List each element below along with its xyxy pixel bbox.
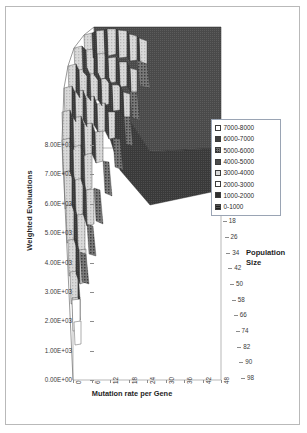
z-tick-label: 66 xyxy=(240,311,247,318)
legend-label: 3000-4000 xyxy=(224,169,255,176)
z-tick-label: 74 xyxy=(242,327,249,334)
legend-swatch-icon xyxy=(215,159,221,165)
z-tick-mark xyxy=(225,237,229,238)
legend-label: 6000-7000 xyxy=(224,135,255,142)
z-tick-mark xyxy=(241,378,245,379)
z-tick-mark xyxy=(232,300,236,301)
legend-swatch-icon xyxy=(215,192,221,198)
z-tick-mark xyxy=(226,253,230,254)
legend-swatch-icon xyxy=(215,147,221,153)
z-tick-label: 18 xyxy=(229,217,236,224)
legend-swatch-icon xyxy=(215,125,221,131)
legend-item[interactable]: 0-1000 xyxy=(215,201,278,212)
z-tick-mark xyxy=(237,347,241,348)
z-tick-label: 26 xyxy=(231,233,238,240)
z-tick-mark xyxy=(230,284,234,285)
z-tick-label: 50 xyxy=(236,280,243,287)
z-tick-mark xyxy=(223,221,227,222)
legend-swatch-icon xyxy=(215,136,221,142)
legend-label: 4000-5000 xyxy=(224,158,255,165)
legend-item[interactable]: 1000-2000 xyxy=(215,190,278,201)
legend-swatch-icon xyxy=(215,170,221,176)
legend-label: 5000-6000 xyxy=(224,147,255,154)
legend-label: 0-1000 xyxy=(224,203,244,210)
z-tick-label: 98 xyxy=(247,374,254,381)
z-tick-label: 90 xyxy=(245,358,252,365)
legend-swatch-icon xyxy=(215,204,221,210)
z-tick-label: 82 xyxy=(243,343,250,350)
legend-item[interactable]: 5000-6000 xyxy=(215,145,278,156)
z-tick-mark xyxy=(228,268,232,269)
legend-label: 7000-8000 xyxy=(224,124,255,131)
legend-item[interactable]: 3000-4000 xyxy=(215,167,278,178)
z-tick-label: 34 xyxy=(232,249,239,256)
legend-item[interactable]: 7000-8000 xyxy=(215,122,278,133)
z-tick-label: 58 xyxy=(238,296,245,303)
chart-figure: Weighted Evaluations 8.00E+037.00E+036.0… xyxy=(0,0,307,433)
z-tick-mark xyxy=(239,362,243,363)
legend-item[interactable]: 6000-7000 xyxy=(215,133,278,144)
legend-label: 1000-2000 xyxy=(224,192,255,199)
z-tick-label: 42 xyxy=(234,264,241,271)
legend-item[interactable]: 2000-3000 xyxy=(215,178,278,189)
z-axis-ticks: 2101826344250586674829098 xyxy=(0,0,307,433)
z-tick-mark xyxy=(236,331,240,332)
z-tick-mark xyxy=(234,315,238,316)
chart-legend: 7000-80006000-70005000-60004000-50003000… xyxy=(211,119,281,216)
legend-label: 2000-3000 xyxy=(224,181,255,188)
legend-swatch-icon xyxy=(215,181,221,187)
legend-item[interactable]: 4000-5000 xyxy=(215,156,278,167)
